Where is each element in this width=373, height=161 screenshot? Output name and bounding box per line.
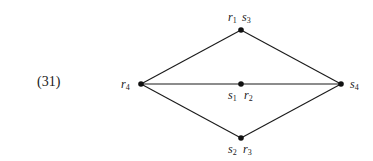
edge-bottom-right [241,84,341,138]
graph-diagram: r1 s3 r4 s1 r2 s4 s2 r3 [0,0,373,161]
label-top-s3: s3 [242,10,251,25]
node-middle [238,81,244,87]
label-mid-r2: r2 [244,88,253,103]
label-mid-s1: s1 [228,88,237,103]
label-top-r1: r1 [228,10,237,25]
label-bot-r3: r3 [243,142,252,157]
node-top [238,27,244,33]
label-left-r4: r4 [121,77,130,92]
edge-top-right [241,30,341,84]
node-bottom [238,135,244,141]
node-left [138,81,144,87]
node-right [338,81,344,87]
label-bot-s2: s2 [228,142,237,157]
label-right-s4: s4 [350,77,359,92]
edge-left-top [141,30,241,84]
edge-left-bottom [141,84,241,138]
